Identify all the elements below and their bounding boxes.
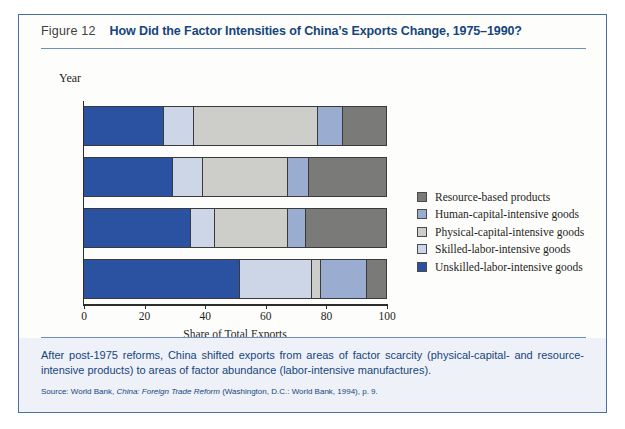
- x-tick-mark: [84, 304, 85, 309]
- figure-title: How Did the Factor Intensities of China’…: [110, 24, 522, 38]
- figure-caption: After post-1975 reforms, China shifted e…: [41, 348, 584, 377]
- bar-segment: [84, 208, 190, 248]
- x-tick-mark: [326, 304, 327, 309]
- legend-swatch: [417, 192, 427, 202]
- figure-header: Figure 12 How Did the Factor Intensities…: [19, 15, 606, 47]
- bar-segment: [305, 208, 387, 248]
- source-prefix: Source: World Bank,: [41, 387, 116, 396]
- chart-legend: Resource-based productsHuman-capital-int…: [417, 188, 607, 276]
- legend-item[interactable]: Unskilled-labor-intensive goods: [417, 258, 607, 276]
- y-axis-title: Year: [59, 71, 81, 86]
- bar-segment: [190, 208, 214, 248]
- legend-swatch: [417, 209, 427, 219]
- bar-segment: [320, 259, 365, 299]
- x-tick-label: 0: [81, 310, 87, 322]
- figure-card: Figure 12 How Did the Factor Intensities…: [18, 14, 607, 413]
- legend-label: Skilled-labor-intensive goods: [435, 243, 571, 255]
- bar-segment: [163, 106, 193, 146]
- bar-segment: [172, 157, 202, 197]
- legend-swatch: [417, 262, 427, 272]
- legend-label: Resource-based products: [435, 191, 550, 203]
- x-tick-label: 60: [260, 310, 272, 322]
- x-tick-mark: [387, 304, 388, 309]
- bar-segment: [287, 208, 305, 248]
- legend-label: Physical-capital-intensive goods: [435, 226, 584, 238]
- bar-segment: [317, 106, 341, 146]
- bar-segment: [214, 208, 287, 248]
- bar-segment: [202, 157, 287, 197]
- legend-item[interactable]: Resource-based products: [417, 188, 607, 206]
- legend-item[interactable]: Skilled-labor-intensive goods: [417, 241, 607, 259]
- chart-plot-region: Year 1975198019851990 020406080100 Share…: [19, 49, 606, 319]
- bar-segment: [287, 157, 308, 197]
- x-tick-mark: [205, 304, 206, 309]
- x-tick-mark: [266, 304, 267, 309]
- x-tick-label: 100: [378, 310, 395, 322]
- legend-item[interactable]: Human-capital-intensive goods: [417, 206, 607, 224]
- x-tick-label: 20: [139, 310, 151, 322]
- bar-segment: [366, 259, 387, 299]
- x-tick-label: 80: [321, 310, 333, 322]
- plot-area: 1975198019851990 020406080100 Share of T…: [84, 101, 387, 304]
- bar-segment: [342, 106, 387, 146]
- figure-source: Source: World Bank, China: Foreign Trade…: [41, 386, 584, 397]
- bar-segment: [193, 106, 317, 146]
- source-title: China: Foreign Trade Reform: [116, 387, 219, 396]
- bar-segment: [84, 259, 239, 299]
- legend-item[interactable]: Physical-capital-intensive goods: [417, 223, 607, 241]
- bar-row: [84, 106, 387, 146]
- legend-swatch: [417, 227, 427, 237]
- bar-row: [84, 157, 387, 197]
- bar-row: [84, 259, 387, 299]
- figure-number: Figure 12: [41, 24, 96, 38]
- bar-segment: [84, 157, 172, 197]
- x-tick-mark: [145, 304, 146, 309]
- legend-label: Human-capital-intensive goods: [435, 208, 579, 220]
- source-suffix: (Washington, D.C.: World Bank, 1994), p.…: [220, 387, 378, 396]
- bar-segment: [308, 157, 387, 197]
- bar-segment: [84, 106, 163, 146]
- bar-segment: [311, 259, 320, 299]
- bar-segment: [239, 259, 312, 299]
- bar-row: [84, 208, 387, 248]
- legend-swatch: [417, 244, 427, 254]
- x-tick-label: 40: [199, 310, 211, 322]
- figure-footer: After post-1975 reforms, China shifted e…: [19, 338, 606, 412]
- legend-label: Unskilled-labor-intensive goods: [435, 261, 583, 273]
